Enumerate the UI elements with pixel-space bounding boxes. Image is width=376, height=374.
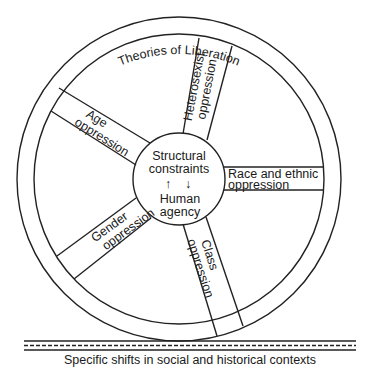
rim-label: Theories of Liberation <box>116 43 242 69</box>
spoke-race: Race and ethnic oppression <box>224 167 323 192</box>
road: Specific shifts in social and historical… <box>24 341 356 367</box>
hub-label-agency: agency <box>160 205 201 219</box>
arrow-up-icon: ↑ <box>165 177 171 191</box>
hub-label-human: Human <box>160 192 200 206</box>
arrow-down-icon: ↓ <box>185 177 191 191</box>
wheel-diagram: Theories of Liberation Heterosexist oppr… <box>0 0 376 374</box>
hub-label-constraints: constraints <box>149 162 209 176</box>
hub: Structural constraints ↑ ↓ Human agency <box>133 133 225 225</box>
spoke-age: Age oppression <box>51 88 150 165</box>
hub-label-structural: Structural <box>152 149 206 163</box>
spoke-class: Class oppression <box>183 217 243 336</box>
spoke-race-label-2: oppression <box>228 178 289 192</box>
road-label: Specific shifts in social and historical… <box>64 353 316 367</box>
